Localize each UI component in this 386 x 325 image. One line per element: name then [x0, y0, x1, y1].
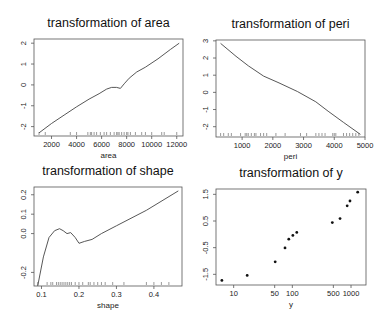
x-tick-label: 5000 — [357, 141, 374, 150]
y-tick-label: -0.5 — [201, 241, 210, 254]
x-tick-label: 4000 — [68, 140, 85, 149]
x-tick-label: 12000 — [166, 140, 187, 149]
figure: transformation of area200040006000800010… — [0, 0, 386, 325]
chart-title: transformation of area — [47, 16, 169, 30]
y-tick-label: 1.5 — [201, 189, 210, 199]
data-point — [356, 191, 359, 194]
x-tick-label: 500 — [327, 289, 340, 298]
panel-y: transformation of y10501005001000-1.5-0.… — [201, 166, 366, 309]
plot-frame — [216, 189, 366, 285]
x-tick-label: 2000 — [264, 141, 281, 150]
x-tick-label: 50 — [271, 289, 279, 298]
data-point — [331, 221, 334, 224]
data-point — [339, 217, 342, 220]
y-tick-label: 2 — [201, 56, 210, 60]
y-tick-label: -0.2 — [19, 266, 28, 279]
data-point — [349, 200, 352, 203]
data-point — [287, 238, 290, 241]
y-tick-label: 3 — [201, 39, 210, 43]
x-axis-label: y — [289, 300, 293, 309]
y-tick-label: 2 — [19, 41, 28, 45]
x-tick-label: 10 — [229, 289, 237, 298]
chart-title: transformation of peri — [231, 17, 349, 31]
y-tick-label: 0 — [201, 90, 210, 94]
chart-title: transformation of shape — [42, 164, 173, 178]
data-point — [220, 279, 223, 282]
y-tick-label: 0.0 — [19, 228, 28, 238]
data-point — [295, 231, 298, 234]
transformation-curve — [221, 43, 361, 134]
x-tick-label: 0.3 — [111, 290, 121, 299]
x-tick-label: 4000 — [326, 141, 343, 150]
y-tick-label: 0.1 — [19, 209, 28, 219]
x-axis-label: peri — [284, 152, 298, 161]
y-tick-label: 1 — [201, 73, 210, 77]
x-axis-label: shape — [97, 301, 119, 310]
y-tick-label: -2 — [19, 123, 28, 130]
y-tick-label: -1 — [19, 102, 28, 109]
chart-title: transformation of y — [239, 166, 343, 180]
x-tick-label: 0.1 — [36, 290, 46, 299]
y-tick-label: 0.5 — [201, 216, 210, 226]
plot-frame — [34, 39, 183, 136]
data-point — [274, 260, 277, 263]
panel-area: transformation of area200040006000800010… — [19, 16, 187, 160]
x-tick-label: 2000 — [43, 140, 60, 149]
y-tick-label: -2 — [201, 123, 210, 130]
data-point — [284, 247, 287, 250]
transformation-curve — [38, 191, 179, 286]
x-tick-label: 0.4 — [149, 290, 159, 299]
x-tick-label: 8000 — [118, 140, 135, 149]
data-point — [246, 274, 249, 277]
x-axis-label: area — [100, 151, 117, 160]
x-tick-label: 10000 — [141, 140, 162, 149]
data-point — [291, 234, 294, 237]
x-tick-label: 1000 — [343, 289, 360, 298]
x-tick-label: 1000 — [234, 141, 251, 150]
panel-shape: transformation of shape0.10.20.30.4-0.20… — [19, 164, 182, 310]
x-tick-label: 100 — [286, 289, 299, 298]
y-tick-label: -1 — [201, 106, 210, 113]
y-tick-label: 0 — [19, 83, 28, 87]
data-point — [346, 204, 349, 207]
x-tick-label: 6000 — [93, 140, 110, 149]
x-tick-label: 0.2 — [74, 290, 84, 299]
transformation-curve — [39, 43, 179, 133]
y-tick-label: 0.2 — [19, 190, 28, 200]
y-tick-label: 1 — [19, 62, 28, 66]
x-tick-label: 3000 — [295, 141, 312, 150]
y-tick-label: -1.5 — [201, 268, 210, 281]
panel-peri: transformation of peri100020003000400050… — [201, 17, 373, 161]
